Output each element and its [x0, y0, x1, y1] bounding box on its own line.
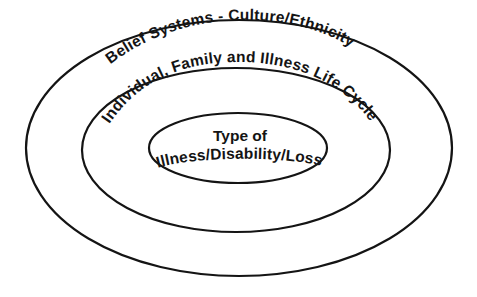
concentric-ellipses-diagram: Belief Systems - Culture/Ethnicity Indiv…	[0, 0, 477, 297]
inner-ring-label-line-1: Type of	[213, 127, 268, 144]
diagram-canvas: Belief Systems - Culture/Ethnicity Indiv…	[0, 0, 477, 297]
